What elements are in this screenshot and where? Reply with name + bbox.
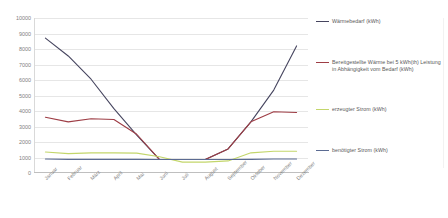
legend-divider bbox=[443, 18, 444, 168]
legend-color-swatch bbox=[316, 109, 329, 110]
x-axis-tick-label: November bbox=[272, 160, 293, 181]
legend-item-4[interactable]: benötigter Strom (kWh) bbox=[316, 147, 444, 154]
x-axis-tick-label: Februar bbox=[66, 164, 83, 181]
legend-label: erzeugter Strom (kWh) bbox=[332, 106, 387, 113]
legend-label: Bereitgestellte Wärme bei 5 kWh(th) Leis… bbox=[332, 59, 444, 73]
x-axis-tick-label: Oktober bbox=[249, 164, 266, 181]
x-axis-tick-label: Juni bbox=[158, 170, 169, 181]
legend-label: Wärmebedarf (kWh) bbox=[332, 18, 381, 25]
x-axis-tick-label: April bbox=[112, 170, 124, 182]
legend-item-1[interactable]: Wärmebedarf (kWh) bbox=[316, 18, 444, 25]
legend-color-swatch bbox=[316, 150, 329, 151]
chart-container: 0100020003000400050006000700080009000100… bbox=[0, 0, 448, 218]
x-axis-tick-label: Januar bbox=[43, 166, 58, 181]
x-axis-tick-label: Mai bbox=[135, 171, 145, 181]
x-axis-tick-label: März bbox=[89, 169, 101, 181]
legend-color-swatch bbox=[316, 21, 329, 22]
x-axis-tick-label: August bbox=[203, 166, 219, 182]
x-axis-tick-label: Dezember bbox=[295, 160, 316, 181]
legend-item-2[interactable]: Bereitgestellte Wärme bei 5 kWh(th) Leis… bbox=[316, 59, 444, 73]
x-axis-tick-label: September bbox=[226, 159, 248, 181]
legend-label: benötigter Strom (kWh) bbox=[332, 147, 388, 154]
legend-color-swatch bbox=[316, 62, 329, 63]
x-axis-tick-label: Juli bbox=[180, 171, 190, 181]
legend-item-3[interactable]: erzeugter Strom (kWh) bbox=[316, 106, 444, 113]
